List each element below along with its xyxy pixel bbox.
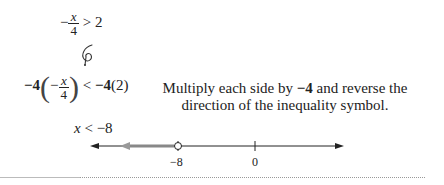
rhs-paren: (2) [111, 77, 129, 93]
result-value: −8 [97, 120, 113, 136]
fraction: x4 [59, 74, 70, 101]
tick-label-neg8: −8 [170, 155, 183, 170]
tick-label-zero: 0 [252, 155, 258, 170]
open-paren: ( [40, 70, 50, 103]
explanation-line-2: direction of the inequality symbol. [150, 97, 420, 114]
explanation-line-1: Multiply each side by −4 and reverse the [150, 80, 420, 97]
rhs-value: 2 [95, 14, 103, 30]
relation-symbol: > [83, 14, 91, 30]
step-explanation: Multiply each side by −4 and reverse the… [150, 80, 420, 114]
close-paren: ) [69, 70, 79, 103]
numerator: x [59, 74, 70, 88]
denominator: 4 [59, 88, 70, 101]
explanation-suffix: and reverse the [313, 80, 408, 96]
number-line [90, 138, 350, 154]
fraction: x4 [68, 10, 79, 37]
explanation-prefix: Multiply each side by [163, 80, 297, 96]
variable: x [74, 120, 81, 136]
relation-symbol: < [83, 77, 91, 93]
explanation-factor: −4 [297, 80, 313, 96]
denominator: 4 [68, 24, 79, 37]
multiplied-inequality: −4(−x4) < −4(2) [24, 72, 129, 102]
solution-arrow-icon [120, 142, 130, 150]
right-arrow-icon [335, 143, 344, 149]
open-point-icon [175, 143, 182, 150]
left-arrow-icon [90, 143, 99, 149]
divider-dotted [80, 177, 425, 178]
inner-sign: − [50, 77, 58, 93]
divider-solid [0, 177, 80, 178]
numerator: x [68, 10, 79, 24]
lhs-factor: −4 [24, 77, 40, 93]
handwritten-mark-icon [78, 43, 100, 67]
rhs-factor: −4 [95, 77, 111, 93]
result-inequality: x < −8 [74, 120, 113, 137]
negative-sign: − [60, 14, 68, 30]
relation-symbol: < [84, 120, 92, 136]
original-inequality: −x4 > 2 [60, 10, 102, 37]
